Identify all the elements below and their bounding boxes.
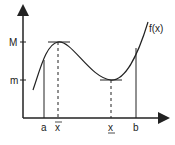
label-a: a [41, 122, 47, 133]
extrema-diagram: M m f(x) a x x b [0, 0, 175, 145]
label-M: M [9, 37, 17, 48]
label-m: m [10, 75, 18, 86]
label-fx: f(x) [149, 23, 163, 34]
label-x-min: x [108, 122, 113, 133]
label-x-max: x [55, 122, 60, 133]
curve-f [33, 22, 148, 90]
label-b: b [133, 122, 139, 133]
